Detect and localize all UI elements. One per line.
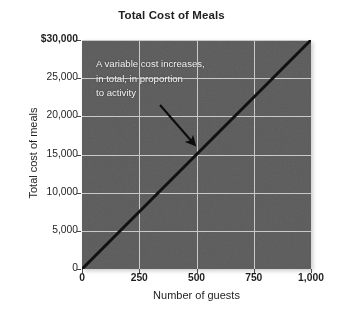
x-axis-tick-label: 1,000 [298,272,324,283]
y-axis-tick-label: 0 [6,262,78,273]
x-axis-tick-mark [311,269,312,273]
x-axis-tick-labels: 02505007501,000 [82,272,311,288]
x-axis-tick-label: 500 [188,272,205,283]
y-axis-tick-mark [77,116,81,117]
y-axis-tick-label: 10,000 [6,186,78,197]
y-axis-tick-label: 25,000 [6,71,78,82]
chart-title: Total Cost of Meals [0,9,343,21]
x-axis-tick-mark [197,269,198,273]
y-axis-tick-mark [77,193,81,194]
x-axis-tick-mark [254,269,255,273]
chart-figure: Total Cost of Meals A variable cost incr… [0,0,343,321]
y-axis-tick-mark [77,269,81,270]
x-axis-tick-mark [139,269,140,273]
x-axis-tick-mark [82,269,83,273]
x-axis-title: Number of guests [82,289,311,301]
y-axis-tick-mark [77,231,81,232]
y-axis-tick-labels: 05,00010,00015,00020,00025,000$30,000 [2,40,78,269]
y-axis-tick-mark [77,78,81,79]
y-axis-title: Total cost of meals [27,39,39,268]
x-axis-tick-label: 750 [245,272,262,283]
x-axis-tick-label: 250 [131,272,148,283]
y-axis-tick-label: $30,000 [6,33,78,44]
annotation-label: A variable cost increases, in total, in … [96,57,246,101]
y-axis-tick-mark [77,40,81,41]
y-axis-tick-label: 15,000 [6,148,78,159]
x-axis-tick-label: 0 [79,272,85,283]
y-axis-tick-label: 20,000 [6,109,78,120]
y-axis-tick-label: 5,000 [6,224,78,235]
y-axis-tick-mark [77,155,81,156]
